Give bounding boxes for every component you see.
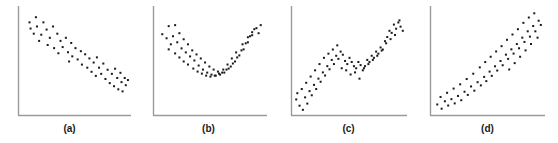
scatter-point (315, 88, 317, 90)
scatter-point (91, 71, 93, 73)
scatter-point (192, 68, 194, 70)
scatter-point (116, 77, 118, 79)
scatter-point (489, 71, 491, 73)
scatter-point (104, 78, 106, 80)
scatter-point (243, 48, 245, 50)
scatter-point (81, 64, 83, 66)
scatter-point (57, 52, 59, 54)
scatter-point (295, 98, 297, 100)
scatter-point (479, 66, 481, 68)
scatter-point (485, 80, 487, 82)
scatter-point (240, 49, 242, 51)
scatter-point (93, 62, 95, 64)
scatter-point (114, 68, 116, 70)
panel-c-points (295, 19, 404, 110)
scatter-point (166, 37, 168, 39)
scatter-point (540, 24, 542, 26)
scatter-point (234, 60, 236, 62)
scatter-point (342, 54, 344, 56)
scatterplot-figure: (a) (b) (c) (0, 0, 558, 143)
panel-c-caption: (c) (279, 122, 418, 136)
scatter-point (33, 33, 35, 35)
scatter-point (494, 65, 496, 67)
scatter-point (174, 24, 176, 26)
scatter-point (534, 30, 536, 32)
scatter-point (537, 37, 539, 39)
panel-b-svg (139, 0, 278, 122)
scatter-point (319, 63, 321, 65)
scatter-point (86, 67, 88, 69)
scatter-point (178, 32, 180, 34)
scatter-point (242, 43, 244, 45)
scatter-point (523, 41, 525, 43)
scatter-point (198, 65, 200, 67)
scatter-point (441, 108, 443, 110)
scatter-point (209, 76, 211, 78)
scatter-point (457, 95, 459, 97)
panel-d-svg (418, 0, 557, 122)
scatter-point (218, 73, 220, 75)
panel-b-caption: (b) (139, 122, 278, 136)
scatter-point (228, 68, 230, 70)
scatter-point (56, 33, 58, 35)
scatter-point (525, 49, 527, 51)
scatter-point (371, 55, 373, 57)
scatter-point (527, 30, 529, 32)
scatter-point (28, 21, 30, 23)
panel-d: (d) (418, 0, 557, 143)
scatter-point (436, 103, 438, 105)
scatter-point (96, 56, 98, 58)
scatter-point (450, 98, 452, 100)
scatter-point (391, 32, 393, 34)
scatter-point (98, 67, 100, 69)
scatter-point (232, 63, 234, 65)
scatter-point (496, 70, 498, 72)
scatter-point (360, 64, 362, 66)
scatter-point (317, 78, 319, 80)
scatter-point (119, 72, 121, 74)
scatter-point (367, 63, 369, 65)
scatter-point (364, 65, 366, 67)
scatter-point (183, 38, 185, 40)
scatter-point (351, 61, 353, 63)
scatter-point (357, 61, 359, 63)
scatter-point (495, 50, 497, 52)
scatter-point (196, 53, 198, 55)
scatter-point (255, 27, 257, 29)
scatter-point (113, 85, 115, 87)
scatter-point (168, 48, 170, 50)
scatter-point (381, 50, 383, 52)
scatter-point (80, 50, 82, 52)
scatter-point (75, 47, 77, 49)
scatter-point (161, 33, 163, 35)
scatter-point (191, 49, 193, 51)
panel-d-points (436, 12, 542, 109)
scatter-point (102, 63, 104, 65)
scatter-point (538, 20, 540, 22)
scatter-point (362, 69, 364, 71)
scatter-point (530, 43, 532, 45)
scatter-point (333, 63, 335, 65)
scatter-point (322, 71, 324, 73)
scatter-point (30, 28, 32, 30)
scatter-point (400, 26, 402, 28)
scatter-point (344, 60, 346, 62)
scatter-point (516, 43, 518, 45)
scatter-point (46, 29, 48, 31)
scatter-point (349, 57, 351, 59)
scatter-point (247, 41, 249, 43)
scatter-point (47, 44, 49, 46)
scatter-point (225, 69, 227, 71)
scatter-point (502, 64, 504, 66)
scatter-point (402, 30, 404, 32)
panel-c: (c) (279, 0, 418, 143)
scatter-point (505, 54, 507, 56)
panel-a-caption: (a) (0, 122, 139, 136)
scatter-point (230, 66, 232, 68)
scatter-point (221, 72, 223, 74)
scatter-point (197, 71, 199, 73)
scatter-point (65, 37, 67, 39)
panel-d-plot (418, 0, 557, 122)
scatter-point (480, 84, 482, 86)
scatter-point (532, 25, 534, 27)
